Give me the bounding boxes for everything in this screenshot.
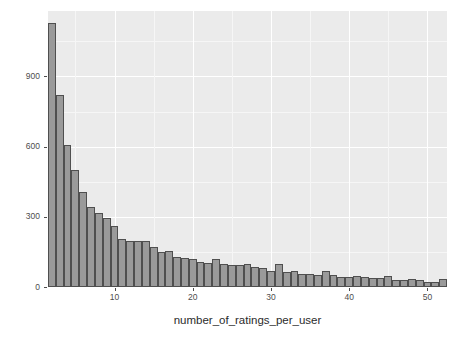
histogram-bar	[228, 265, 236, 287]
y-tick-label: 600	[14, 142, 40, 151]
histogram-bar	[392, 280, 400, 287]
histogram-bar	[244, 264, 252, 287]
x-tick-label: 40	[334, 293, 364, 302]
y-tick-label: 300	[14, 212, 40, 221]
histogram-bar	[64, 145, 72, 287]
histogram-bar	[79, 192, 87, 287]
histogram-bar	[48, 23, 56, 287]
histogram-bar	[236, 265, 244, 287]
histogram-bar	[87, 207, 95, 287]
histogram-bar	[377, 278, 385, 287]
histogram-bar	[384, 276, 392, 287]
y-tick-mark	[44, 287, 47, 288]
histogram-bar	[322, 271, 330, 287]
histogram-bar	[314, 275, 322, 287]
histogram-bar	[103, 218, 111, 287]
histogram-bar	[126, 241, 134, 287]
gridline-vertical-minor	[310, 11, 311, 287]
x-tick-label: 10	[100, 293, 130, 302]
y-axis-title: count	[0, 153, 45, 171]
histogram-bar	[165, 251, 173, 287]
histogram-bar	[369, 278, 377, 287]
histogram-bar	[181, 258, 189, 287]
histogram-bar	[353, 276, 361, 287]
histogram-bar	[259, 268, 267, 287]
histogram-bar	[408, 279, 416, 287]
x-tick-mark	[193, 288, 194, 291]
histogram-bar	[337, 277, 345, 287]
histogram-bar	[134, 241, 142, 287]
histogram-bar	[361, 277, 369, 287]
y-tick-label: 900	[14, 72, 40, 81]
y-tick-mark	[44, 76, 47, 77]
histogram-bar	[173, 257, 181, 287]
gridline-vertical-major	[271, 11, 272, 287]
histogram-bar	[330, 275, 338, 287]
histogram-bar	[95, 213, 103, 287]
histogram-bar	[400, 280, 408, 287]
histogram-bar	[345, 277, 353, 287]
histogram-bar	[56, 95, 64, 287]
histogram-bar	[142, 241, 150, 287]
gridline-vertical-minor	[154, 11, 155, 287]
histogram-bar	[275, 264, 283, 287]
gridline-vertical-major	[349, 11, 350, 287]
histogram-bar	[298, 274, 306, 287]
histogram-bar	[189, 259, 197, 287]
histogram-bar	[197, 262, 205, 287]
y-tick-mark	[44, 147, 47, 148]
histogram-bar	[424, 282, 432, 287]
x-axis-title: number_of_ratings_per_user	[48, 314, 447, 326]
gridline-vertical-major	[427, 11, 428, 287]
histogram-bar	[416, 280, 424, 287]
gridline-vertical-major	[193, 11, 194, 287]
histogram-bar	[118, 239, 126, 287]
histogram-bar	[158, 252, 166, 287]
histogram-bar	[251, 267, 259, 287]
x-tick-mark	[115, 288, 116, 291]
histogram-bar	[220, 264, 228, 287]
histogram-chart: count 0300600900 1020304050 number_of_ra…	[0, 0, 471, 342]
x-tick-mark	[271, 288, 272, 291]
gridline-vertical-minor	[388, 11, 389, 287]
gridline-vertical-minor	[232, 11, 233, 287]
histogram-bar	[439, 279, 447, 287]
x-tick-label: 30	[256, 293, 286, 302]
x-tick-mark	[427, 288, 428, 291]
y-tick-mark	[44, 217, 47, 218]
x-tick-mark	[349, 288, 350, 291]
histogram-bar	[204, 263, 212, 287]
y-tick-label: 0	[14, 283, 40, 292]
histogram-bar	[212, 259, 220, 287]
histogram-bar	[306, 274, 314, 287]
plot-panel	[48, 11, 447, 287]
x-tick-label: 50	[412, 293, 442, 302]
histogram-bar	[283, 272, 291, 287]
histogram-bar	[71, 170, 79, 287]
histogram-bar	[291, 271, 299, 287]
x-tick-label: 20	[178, 293, 208, 302]
histogram-bar	[111, 226, 119, 287]
histogram-bar	[431, 282, 439, 287]
histogram-bar	[267, 271, 275, 287]
histogram-bar	[150, 247, 158, 287]
